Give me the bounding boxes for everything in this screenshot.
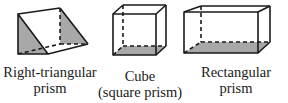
cube-shape xyxy=(113,5,166,55)
cube-label: Cube (square prism) xyxy=(92,68,188,100)
front-triangle-face xyxy=(18,14,48,54)
label-line: prism xyxy=(0,80,100,96)
rectangular-prism-label: Rectangular prism xyxy=(186,64,286,96)
right-triangular-prism-label: Right-triangular prism xyxy=(0,64,100,96)
rectangular-prism-shape xyxy=(184,6,270,53)
label-line: Rectangular xyxy=(186,64,286,80)
rect-bottom-face xyxy=(184,42,270,53)
label-line: (square prism) xyxy=(92,84,188,100)
label-line: Right-triangular xyxy=(0,64,100,80)
label-line: prism xyxy=(186,80,286,96)
label-line: Cube xyxy=(92,68,188,84)
prism-figures xyxy=(0,0,288,60)
right-triangular-prism-shape xyxy=(18,8,88,54)
